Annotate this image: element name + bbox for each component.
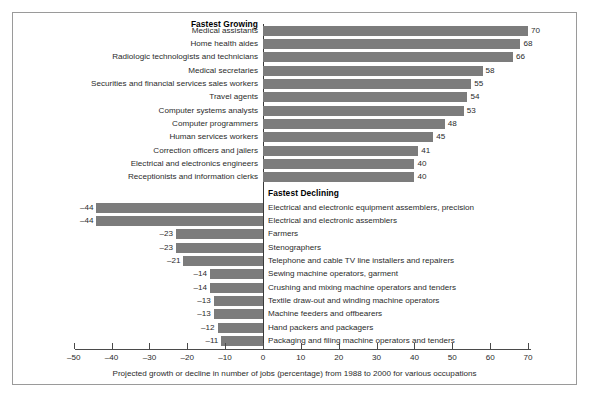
- bar: [263, 39, 520, 49]
- x-axis-tick-label: –20: [181, 353, 195, 362]
- bar-category-label: Electrical and electronics engineers: [131, 159, 258, 169]
- bar-value-label: 48: [448, 119, 457, 129]
- bar-value-label: 68: [523, 39, 532, 49]
- bar: [214, 309, 263, 319]
- table-row: –23Farmers: [13, 228, 576, 241]
- x-axis-tick-label: 60: [486, 353, 495, 362]
- table-row: Correction officers and jailers41: [13, 144, 576, 157]
- bar-category-label: Receptionists and information clerks: [128, 172, 258, 182]
- bar-value-label: 40: [417, 172, 426, 182]
- bar-value-label: –23: [13, 229, 173, 239]
- x-axis-tick: [301, 343, 302, 349]
- bar-category-label: Home health aides: [191, 39, 259, 49]
- bar-category-label: Machine feeders and offbearers: [268, 309, 382, 319]
- bar-category-label: Correction officers and jailers: [153, 146, 258, 156]
- bar: [218, 323, 263, 333]
- bar-value-label: –23: [13, 243, 173, 253]
- bar: [214, 296, 263, 306]
- bar-value-label: –12: [13, 323, 215, 333]
- x-axis-tick: [377, 343, 378, 349]
- bar: [176, 229, 263, 239]
- bar-category-label: Crushing and mixing machine operators an…: [268, 283, 456, 293]
- table-row: –13Machine feeders and offbearers: [13, 308, 576, 321]
- bar-value-label: 45: [436, 132, 445, 142]
- x-axis-tick-label: 50: [448, 353, 457, 362]
- table-row: –21Telephone and cable TV line installer…: [13, 254, 576, 267]
- x-axis-tick-label: –10: [218, 353, 232, 362]
- table-row: –44Electrical and electronic equipment a…: [13, 201, 576, 214]
- table-row: –13Textile draw-out and winding machine …: [13, 294, 576, 307]
- bar-value-label: 70: [531, 26, 540, 36]
- x-axis-line: [75, 349, 531, 350]
- section-heading-fastest-declining: Fastest Declining: [268, 188, 339, 198]
- table-row: Home health aides68: [13, 37, 576, 50]
- x-axis-tick-label: 0: [261, 353, 266, 362]
- table-row: –14Crushing and mixing machine operators…: [13, 281, 576, 294]
- bar-value-label: 54: [470, 92, 479, 102]
- table-row: Medical assistants70: [13, 24, 576, 37]
- bar-category-label: Electrical and electronic equipment asse…: [268, 203, 474, 213]
- table-row: Electrical and electronics engineers40: [13, 158, 576, 171]
- table-row: Travel agents54: [13, 91, 576, 104]
- bar-category-label: Computer programmers: [172, 119, 258, 129]
- bar: [96, 203, 263, 213]
- bar: [263, 106, 464, 116]
- table-row: Receptionists and information clerks40: [13, 171, 576, 184]
- bar-value-label: 41: [421, 146, 430, 156]
- bar: [263, 132, 433, 142]
- x-axis-tick-label: 10: [296, 353, 305, 362]
- x-axis-tick-label: –30: [143, 353, 157, 362]
- x-axis-tick-label: 70: [524, 353, 533, 362]
- bar-category-label: Radiologic technologists and technicians: [112, 52, 258, 62]
- table-row: –12Hand packers and packagers: [13, 321, 576, 334]
- bar-value-label: –14: [13, 269, 207, 279]
- bar-category-label: Sewing machine operators, garment: [268, 269, 398, 279]
- x-axis-tick-label: 30: [372, 353, 381, 362]
- bar: [263, 66, 483, 76]
- x-axis-tick-label: 40: [410, 353, 419, 362]
- bar-value-label: –44: [13, 203, 93, 213]
- bar-value-label: 53: [467, 106, 476, 116]
- chart-caption: Projected growth or decline in number of…: [13, 369, 576, 378]
- bar: [176, 243, 263, 253]
- bar-category-label: Medical assistants: [192, 26, 258, 36]
- table-row: –11Packaging and filing machine operator…: [13, 335, 576, 348]
- x-axis-tick-label: 20: [334, 353, 343, 362]
- bar-category-label: Stenographers: [268, 243, 321, 253]
- x-axis-tick: [414, 343, 415, 349]
- bar-value-label: –44: [13, 216, 93, 226]
- bar: [263, 52, 513, 62]
- x-axis-tick: [490, 343, 491, 349]
- bar-category-label: Telephone and cable TV line installers a…: [268, 256, 454, 266]
- table-row: Human services workers45: [13, 131, 576, 144]
- bar-category-label: Computer systems analysts: [159, 106, 258, 116]
- bar-value-label: –13: [13, 309, 211, 319]
- x-axis-tick: [74, 343, 75, 349]
- x-axis-tick: [187, 343, 188, 349]
- bar-value-label: 40: [417, 159, 426, 169]
- bar-category-label: Human services workers: [169, 132, 258, 142]
- bar: [263, 146, 418, 156]
- bar: [263, 79, 471, 89]
- figure-frame: Fastest Growing Fastest Declining Medica…: [12, 12, 577, 385]
- bar: [210, 269, 263, 279]
- bar-category-label: Hand packers and packagers: [268, 323, 373, 333]
- bar: [263, 172, 414, 182]
- bar-chart-plot-area: Fastest Growing Fastest Declining Medica…: [13, 13, 576, 384]
- bar: [96, 216, 263, 226]
- table-row: –23Stenographers: [13, 241, 576, 254]
- bar-value-label: 66: [516, 52, 525, 62]
- bar: [263, 159, 414, 169]
- x-axis-tick-label: –40: [105, 353, 119, 362]
- x-axis-tick: [339, 343, 340, 349]
- x-axis-tick: [149, 343, 150, 349]
- bar-value-label: 55: [474, 79, 483, 89]
- x-axis-tick-label: –50: [67, 353, 81, 362]
- bar: [221, 336, 263, 346]
- x-axis-tick: [112, 343, 113, 349]
- x-axis-tick: [263, 343, 264, 349]
- bar: [183, 256, 263, 266]
- bar-value-label: –21: [13, 256, 180, 266]
- table-row: Medical secretaries58: [13, 64, 576, 77]
- bar: [263, 119, 445, 129]
